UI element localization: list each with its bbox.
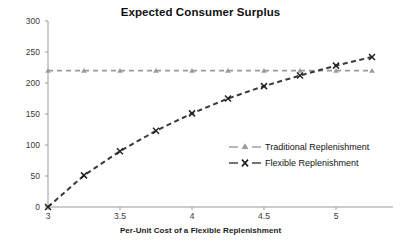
legend-item-traditional[interactable]: Traditional Replenishment [228, 139, 398, 155]
plot-area: 050100150200250300 33.544.55 [0, 0, 401, 245]
x-tick-label: 3.5 [105, 212, 135, 221]
x-tick-label: 3 [33, 212, 63, 221]
chart-container: Expected Consumer Surplus 05010015020025… [0, 0, 401, 245]
x-tick-label: 5 [321, 212, 351, 221]
legend-key-flexible-icon [228, 157, 262, 169]
axis-lines [48, 21, 393, 207]
data-series-layer [45, 54, 375, 210]
y-tick-label: 200 [14, 79, 40, 88]
legend-label-traditional: Traditional Replenishment [262, 142, 369, 152]
series-line-flexible [48, 57, 372, 207]
chart-legend: Traditional Replenishment Flexible Reple… [228, 139, 398, 171]
data-point-marker [369, 68, 375, 73]
x-axis-title: Per-Unit Cost of a Flexible Replenishmen… [0, 226, 401, 235]
data-point-marker [81, 172, 87, 178]
y-tick-label: 250 [14, 48, 40, 57]
data-point-marker [117, 148, 123, 154]
legend-key-traditional-icon [228, 141, 262, 153]
plot-svg [0, 0, 401, 245]
x-tick-label: 4 [177, 212, 207, 221]
x-tick-label: 4.5 [249, 212, 279, 221]
legend-label-flexible: Flexible Replenishment [262, 158, 359, 168]
y-tick-label: 0 [14, 203, 40, 212]
legend-item-flexible[interactable]: Flexible Replenishment [228, 155, 398, 171]
y-tick-label: 300 [14, 17, 40, 26]
y-tick-label: 100 [14, 141, 40, 150]
y-tick-label: 50 [14, 172, 40, 181]
data-point-marker [153, 128, 159, 134]
y-tick-label: 150 [14, 110, 40, 119]
